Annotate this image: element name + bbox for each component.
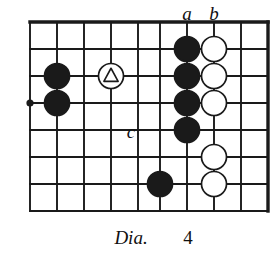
black-stone <box>175 37 200 62</box>
black-stone <box>175 64 200 89</box>
black-stone <box>45 64 70 89</box>
diagram-caption-word: Dia. <box>114 228 147 247</box>
board-stones <box>45 37 227 197</box>
go-diagram-figure: a b c Dia. 4 <box>0 0 280 254</box>
point-label-c: c <box>127 122 135 141</box>
go-board <box>0 0 280 254</box>
black-stone <box>45 91 70 116</box>
white-stone <box>202 145 227 170</box>
white-stone <box>202 91 227 116</box>
black-stone <box>148 172 173 197</box>
diagram-caption-number: 4 <box>183 228 193 247</box>
white-stone <box>202 37 227 62</box>
white-stone <box>202 64 227 89</box>
white-stone-marked <box>99 64 124 89</box>
black-stone <box>175 91 200 116</box>
white-stone <box>202 172 227 197</box>
board-star-points <box>26 99 33 106</box>
star-point <box>26 99 33 106</box>
point-label-b: b <box>209 4 219 23</box>
point-label-a: a <box>182 4 192 23</box>
black-stone <box>175 118 200 143</box>
